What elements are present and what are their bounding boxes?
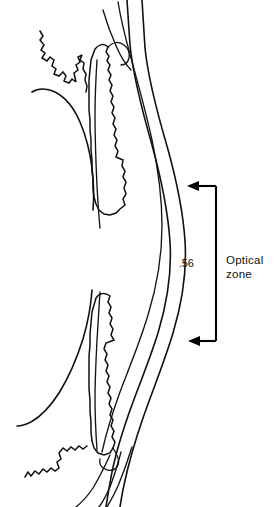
arrow-left-icon-bottom [188,336,200,346]
anterior-corneal-surface-line [120,0,185,507]
superior-scleral-curve [32,89,94,210]
superior-body-hook [108,43,129,65]
corneal-stroma-inner-line [102,2,162,452]
corneal-thickness-label: .56 [179,258,194,269]
optical-zone-label-line1: Optical [226,254,264,268]
inferior-conjunctival-squiggle [25,446,87,477]
optical-zone-label: Optical zone [226,254,264,281]
corneal-cross-section-figure: .56 Optical zone [0,0,277,507]
inferior-elongated-body [89,294,115,455]
arrow-left-icon-top [187,181,199,191]
inferior-scleral-curve [17,290,92,426]
superior-conjunctival-squiggle [40,31,87,92]
inferior-ciliary-line [95,292,100,450]
optical-zone-label-line2: zone [226,268,264,282]
inferior-limbal-line-c [76,455,110,507]
